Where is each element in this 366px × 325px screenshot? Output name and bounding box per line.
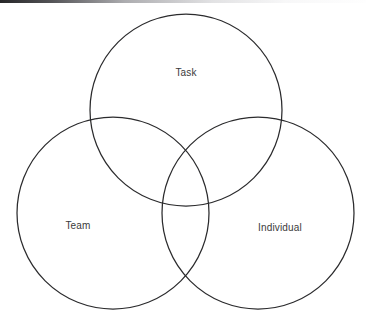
venn-label-task: Task [175,67,197,78]
venn-circle-task[interactable] [90,14,282,206]
venn-label-team: Team [65,220,90,231]
venn-circle-individual[interactable] [162,117,354,309]
venn-diagram: Task Team Individual [0,0,366,325]
venn-label-individual: Individual [258,222,302,233]
venn-diagram-canvas: Task Team Individual [0,0,366,325]
venn-circle-team[interactable] [17,117,209,309]
